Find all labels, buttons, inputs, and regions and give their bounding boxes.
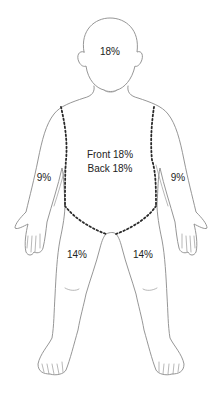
head-percentage-label: 18% bbox=[96, 46, 124, 58]
trunk-percentage-label: Front 18% Back 18% bbox=[80, 148, 140, 176]
left-toes bbox=[42, 362, 63, 374]
left-arm-boundary bbox=[61, 107, 67, 206]
right-arm-percentage-label: 9% bbox=[167, 172, 189, 184]
trunk-front-label: Front 18% bbox=[80, 148, 140, 162]
body-outline-figure bbox=[0, 0, 217, 400]
left-knee-line bbox=[65, 288, 79, 290]
left-arm-percentage-label: 9% bbox=[33, 172, 55, 184]
left-leg-percentage-label: 14% bbox=[64, 249, 90, 261]
body-outline bbox=[15, 86, 207, 375]
right-fingers bbox=[182, 234, 195, 252]
right-leg-percentage-label: 14% bbox=[130, 249, 156, 261]
left-fingers bbox=[27, 234, 40, 252]
groin-boundary bbox=[65, 206, 156, 234]
body-surface-diagram: 18% Front 18% Back 18% 9% 9% 14% 14% bbox=[0, 0, 217, 400]
trunk-back-label: Back 18% bbox=[80, 162, 140, 176]
right-arm-boundary bbox=[151, 107, 156, 206]
right-knee-line bbox=[143, 288, 157, 290]
right-toes bbox=[159, 362, 179, 374]
